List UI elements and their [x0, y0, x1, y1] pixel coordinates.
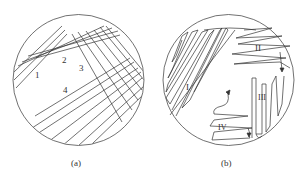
streak-zone-III: [252, 76, 284, 138]
caption-a: (a): [71, 158, 81, 168]
streak-zone-IV: [210, 90, 252, 140]
caption-b: (b): [221, 158, 232, 168]
figure-canvas: 1 2 3 4 (a) I: [0, 0, 306, 179]
zone-label-III: III: [258, 93, 266, 102]
streak-zone-II: [232, 28, 290, 72]
petri-dish-a: [13, 15, 144, 146]
streak-group-2: [18, 26, 120, 66]
zone-label-IV: IV: [218, 123, 227, 132]
zone-label-II: II: [255, 43, 261, 53]
zone-label-I: I: [186, 82, 189, 92]
streak-group-3: [72, 26, 144, 122]
region-label-2: 2: [62, 55, 67, 65]
panel-b: [163, 15, 294, 146]
panel-a: [13, 15, 144, 147]
region-label-1: 1: [35, 70, 40, 80]
region-label-3: 3: [79, 63, 84, 73]
streak-zone-I: [166, 28, 256, 116]
region-label-4: 4: [63, 85, 68, 95]
